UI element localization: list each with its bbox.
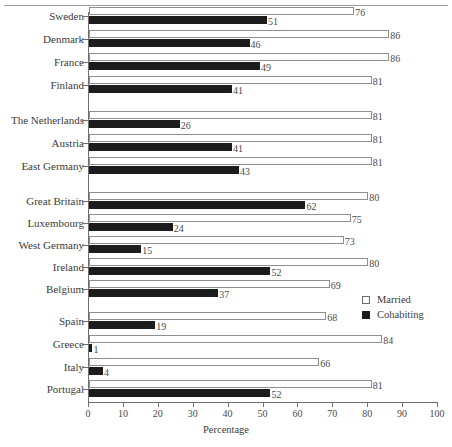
bar-married — [89, 7, 354, 15]
bar-cohabiting — [89, 267, 270, 275]
bar-cohabiting — [89, 85, 232, 93]
bar-value-married: 69 — [331, 281, 341, 291]
bar-cohabiting — [89, 389, 270, 397]
bar-value-married: 68 — [327, 313, 337, 323]
bar-married — [89, 157, 372, 165]
bar-married — [89, 30, 389, 38]
x-axis-tick — [88, 402, 89, 407]
bar-married — [89, 76, 372, 84]
x-axis-tick — [263, 402, 264, 407]
bar-value-cohabiting: 62 — [306, 202, 316, 212]
category-label: Italy — [0, 362, 84, 373]
x-axis-tick — [332, 402, 333, 407]
chart-legend: Married Cohabiting — [362, 292, 424, 322]
bar-value-married: 73 — [345, 237, 355, 247]
legend-label-cohabiting: Cohabiting — [377, 307, 424, 322]
category-label: Belgium — [0, 284, 84, 295]
bar-value-cohabiting: 52 — [271, 268, 281, 278]
y-axis-tick — [82, 16, 88, 17]
x-axis-tick — [437, 402, 438, 407]
bar-married — [89, 53, 389, 61]
category-label: Finland — [0, 80, 84, 91]
bar-value-married: 86 — [390, 31, 400, 41]
x-axis-tick-label: 80 — [352, 408, 382, 420]
x-axis-tick — [402, 402, 403, 407]
y-axis-tick — [82, 344, 88, 345]
bar-cohabiting — [89, 143, 232, 151]
bar-married — [89, 380, 372, 388]
bar-value-cohabiting: 19 — [156, 322, 166, 332]
x-axis-tick-label: 90 — [387, 408, 417, 420]
y-axis-tick — [82, 62, 88, 63]
bar-value-cohabiting: 26 — [181, 121, 191, 131]
bar-cohabiting — [89, 289, 218, 297]
legend-label-married: Married — [377, 292, 411, 307]
legend-swatch-cohabiting-icon — [362, 311, 370, 319]
x-axis-tick-label: 10 — [108, 408, 138, 420]
bar-value-married: 81 — [373, 135, 383, 145]
y-axis-tick — [82, 143, 88, 144]
category-label: Austria — [0, 138, 84, 149]
bar-value-married: 81 — [373, 158, 383, 168]
y-axis-tick — [82, 223, 88, 224]
y-axis-tick — [82, 245, 88, 246]
bar-married — [89, 280, 330, 288]
bar-value-cohabiting: 43 — [240, 167, 250, 177]
bar-married — [89, 335, 382, 343]
category-label: Ireland — [0, 262, 84, 273]
bar-value-cohabiting: 41 — [233, 86, 243, 96]
category-label: Spain — [0, 316, 84, 327]
bar-cohabiting — [89, 166, 239, 174]
bar-married — [89, 134, 372, 142]
legend-swatch-married-icon — [362, 296, 370, 304]
bar-cohabiting — [89, 344, 92, 352]
y-axis-tick — [82, 367, 88, 368]
y-axis-tick — [82, 39, 88, 40]
bar-cohabiting — [89, 62, 260, 70]
x-axis-tick-label: 60 — [282, 408, 312, 420]
x-axis-tick-label: 0 — [73, 408, 103, 420]
y-axis-tick — [82, 389, 88, 390]
bar-value-married: 81 — [373, 77, 383, 87]
bar-cohabiting — [89, 120, 180, 128]
bar-cohabiting — [89, 321, 155, 329]
x-axis-tick — [158, 402, 159, 407]
category-label: Portugal — [0, 384, 84, 395]
bar-value-married: 66 — [320, 359, 330, 369]
bar-married — [89, 358, 319, 366]
x-axis-tick-label: 50 — [248, 408, 278, 420]
bar-cohabiting — [89, 367, 103, 375]
bar-value-cohabiting: 51 — [268, 17, 278, 27]
y-axis-tick — [82, 321, 88, 322]
bar-value-married: 86 — [390, 54, 400, 64]
x-axis-tick-label: 70 — [317, 408, 347, 420]
bar-married — [89, 111, 372, 119]
bar-value-married: 75 — [352, 215, 362, 225]
bar-cohabiting — [89, 201, 305, 209]
bar-chart: Sweden7651Denmark8646France8649Finland81… — [0, 0, 452, 447]
bar-married — [89, 214, 351, 222]
x-axis-tick-label: 20 — [143, 408, 173, 420]
bar-cohabiting — [89, 16, 267, 24]
bar-value-married: 84 — [383, 336, 393, 346]
bar-value-married: 81 — [373, 112, 383, 122]
category-label: Sweden — [0, 11, 84, 22]
category-label: The Netherlands — [0, 115, 84, 126]
x-axis-tick-label: 30 — [178, 408, 208, 420]
bar-value-cohabiting: 49 — [261, 63, 271, 73]
x-axis-title: Percentage — [0, 424, 452, 435]
bar-married — [89, 258, 368, 266]
legend-item-cohabiting: Cohabiting — [362, 307, 424, 322]
x-axis-tick-label: 40 — [213, 408, 243, 420]
y-axis-tick — [82, 289, 88, 290]
category-label: Luxembourg — [0, 218, 84, 229]
bar-value-cohabiting: 37 — [219, 290, 229, 300]
y-axis-tick — [82, 85, 88, 86]
category-label: West Germany — [0, 240, 84, 251]
bar-value-married: 81 — [373, 381, 383, 391]
category-label: Greece — [0, 339, 84, 350]
bar-value-married: 80 — [369, 193, 379, 203]
bar-value-cohabiting: 15 — [142, 246, 152, 256]
x-axis-tick — [193, 402, 194, 407]
x-axis-tick — [297, 402, 298, 407]
